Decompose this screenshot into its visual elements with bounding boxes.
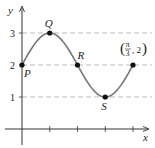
y-tick-label-1: 1 — [10, 92, 15, 103]
points-group: PQRS(π3, 2) — [19, 17, 147, 112]
label-comma: , 2 — [132, 45, 141, 55]
label-paren-right: ) — [142, 40, 147, 57]
point-2 — [47, 30, 52, 35]
point-3 — [75, 62, 80, 67]
label-paren-left: ( — [120, 40, 125, 57]
sine-chart: 123 PQRS(π3, 2) y x — [0, 0, 155, 148]
y-tick-label-3: 3 — [10, 28, 15, 39]
x-axis-label: x — [142, 131, 148, 143]
label-denominator: 3 — [126, 49, 130, 58]
point-label-Q: Q — [45, 17, 53, 29]
point-label-S: S — [101, 100, 107, 112]
point-5 — [130, 62, 135, 67]
point-label-end: (π3, 2) — [120, 40, 147, 58]
y-tick-label-2: 2 — [10, 60, 15, 71]
point-label-R: R — [77, 49, 85, 61]
point-4 — [103, 94, 108, 99]
point-label-P: P — [23, 67, 31, 79]
label-numerator: π — [126, 40, 130, 49]
y-axis-label: y — [7, 4, 13, 16]
